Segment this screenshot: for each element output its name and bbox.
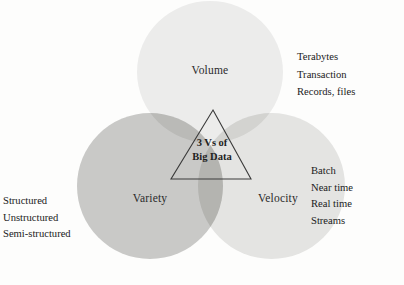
annotation-item: Unstructured xyxy=(3,210,71,227)
circle-label-variety: Variety xyxy=(100,192,200,204)
annotation-item: Transaction xyxy=(297,66,355,84)
annotation-list-variety: Structured Unstructured Semi-structured xyxy=(3,193,71,243)
annotation-item: Near time xyxy=(311,180,353,197)
annotation-item: Real time xyxy=(311,196,353,213)
center-caption-line-2: Big Data xyxy=(192,151,231,162)
annotation-item: Batch xyxy=(311,163,353,180)
circle-label-volume: Volume xyxy=(160,64,260,76)
annotation-item: Semi-structured xyxy=(3,226,71,243)
center-caption-line-1: 3 Vs of xyxy=(197,137,228,148)
center-caption: 3 Vs of Big Data xyxy=(172,136,252,163)
annotation-item: Structured xyxy=(3,193,71,210)
annotation-item: Terabytes xyxy=(297,48,355,66)
annotation-list-volume: Terabytes Transaction Records, files xyxy=(297,48,355,101)
annotation-list-velocity: Batch Near time Real time Streams xyxy=(311,163,353,229)
venn-diagram-figure: 3 Vs of Big Data Volume Variety Velocity… xyxy=(0,0,404,285)
annotation-item: Records, files xyxy=(297,83,355,101)
annotation-item: Streams xyxy=(311,213,353,230)
